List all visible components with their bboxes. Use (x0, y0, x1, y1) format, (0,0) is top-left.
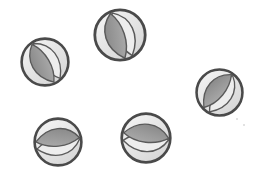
bean-1 (19, 36, 71, 88)
bean-5 (119, 111, 173, 165)
speck-1 (236, 118, 238, 120)
bean-3 (194, 67, 245, 118)
image-canvas (0, 0, 253, 178)
bean-4 (32, 116, 84, 168)
speck-2 (243, 124, 245, 126)
bean-2 (92, 7, 148, 63)
